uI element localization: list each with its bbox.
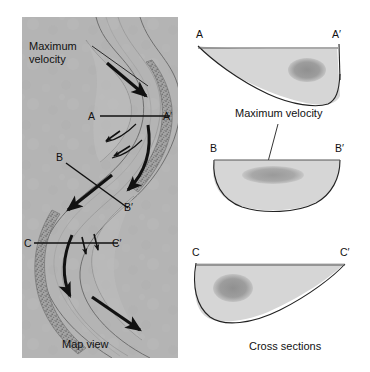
cross-section-a-left-label: A [196,28,203,40]
cross-section-a-right-label: A′ [332,28,341,40]
map-max-velocity-label-line2: velocity [29,53,66,65]
map-view-caption: Map view [62,338,109,350]
cross-section-a-max-velocity-core [288,58,326,82]
cross-section-max-velocity-label: Maximum velocity [235,107,323,119]
cross-section-c-max-velocity-core [213,274,253,302]
cross-section-b-right-label: B′ [335,142,344,154]
cross-section-c-right-label: C′ [340,246,350,258]
map-max-velocity-label-line1: Maximum [29,40,77,52]
cross-section-b-max-velocity-core [242,166,304,184]
section-b-left-label: B [56,151,63,163]
cross-section-b-left-label: B [210,142,217,154]
section-a-right-label: A′ [163,110,172,122]
section-b-right-label: B′ [124,201,133,213]
section-c-left-label: C [24,237,32,249]
section-c-right-label: C′ [112,237,122,249]
figure-container: Maximum velocity A A′ [0,0,370,372]
map-view-panel: Maximum velocity A A′ [22,17,180,358]
section-a-left-label: A [88,110,95,122]
cross-section-c-left-label: C [192,246,200,258]
cross-sections-caption: Cross sections [249,340,322,352]
stream-meander-figure: Maximum velocity A A′ [0,0,370,372]
